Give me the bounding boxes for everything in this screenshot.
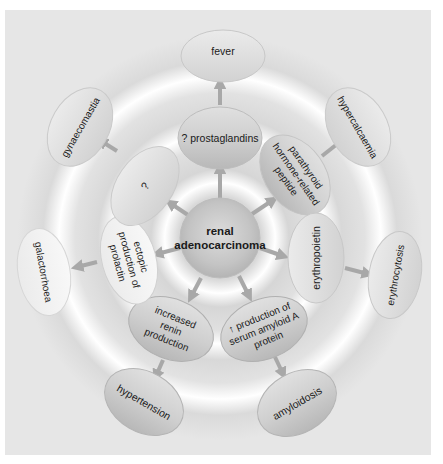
center-label-line1: renal xyxy=(206,225,234,237)
mediator-erythropoietin: erythropoietin xyxy=(288,213,344,303)
diagram-canvas: renal adenocarcinoma ? prostaglandins pa… xyxy=(5,10,431,455)
effect-fever: fever xyxy=(181,30,265,82)
mediator-prostaglandins: ? prostaglandins xyxy=(178,107,262,169)
center-circle xyxy=(180,198,260,278)
effect-label-fever: fever xyxy=(211,45,235,57)
mediator-label-erythropoietin: erythropoietin xyxy=(310,226,322,290)
center-label-line2: adenocarcinoma xyxy=(174,239,266,251)
mediator-label-prostaglandins: ? prostaglandins xyxy=(181,132,258,144)
diagram-panel: renal adenocarcinoma ? prostaglandins pa… xyxy=(5,10,431,455)
